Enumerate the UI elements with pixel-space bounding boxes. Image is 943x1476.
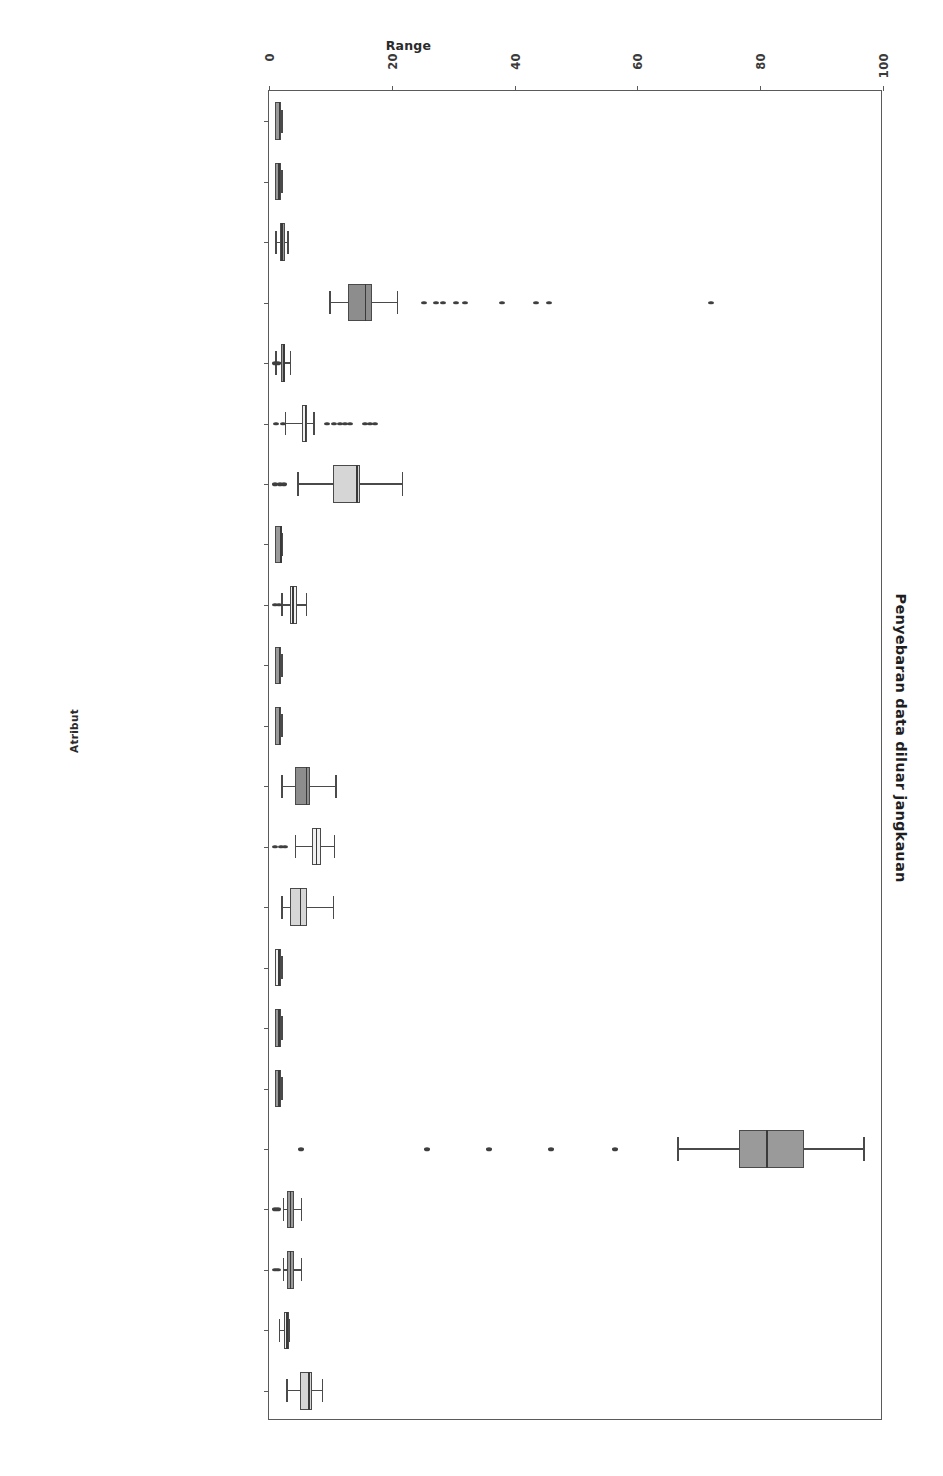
outlier-point <box>272 845 278 849</box>
outlier-point <box>280 422 286 426</box>
whisker-high <box>321 846 335 847</box>
cap-high <box>863 1137 864 1160</box>
x-tick-mark <box>392 86 393 91</box>
y-tick-mark <box>264 1391 269 1392</box>
outlier-point <box>499 301 505 305</box>
median-line <box>283 344 285 381</box>
x-tick-mark <box>515 86 516 91</box>
whisker-low <box>297 483 333 484</box>
median-line <box>290 1251 292 1288</box>
cap-high <box>281 714 282 737</box>
whisker-low <box>677 1148 739 1149</box>
cap-low <box>295 835 296 858</box>
whisker-high <box>310 786 336 787</box>
outlier-point <box>612 1147 618 1151</box>
scan-margin <box>0 0 943 10</box>
outlier-point <box>440 301 446 305</box>
median-line <box>278 163 280 200</box>
y-tick-mark <box>264 1028 269 1029</box>
median-line <box>306 767 308 804</box>
outlier-point <box>347 422 353 426</box>
y-tick-mark <box>264 1330 269 1331</box>
y-tick-mark <box>264 605 269 606</box>
cap-high <box>301 1198 302 1221</box>
median-line <box>308 1372 310 1409</box>
whisker-high <box>294 1269 301 1270</box>
chart-page: Range Atribut Penyebaran data diluar jan… <box>0 0 943 1476</box>
y-tick-mark <box>264 1209 269 1210</box>
plot-area: 020406080100 Jenis kelaminLokasi rumahLe… <box>268 90 882 1420</box>
x-tick-label: 100 <box>877 53 891 78</box>
whisker-high <box>312 1390 322 1391</box>
outlier-point <box>276 603 282 607</box>
x-tick-mark <box>883 86 884 91</box>
x-tick-mark <box>637 86 638 91</box>
x-axis-title: Range <box>0 38 943 53</box>
median-line <box>365 284 367 321</box>
outlier-point <box>273 422 279 426</box>
x-tick-mark <box>760 86 761 91</box>
x-axis-title-text: Range <box>386 38 431 53</box>
outlier-point <box>548 1147 554 1151</box>
outlier-point <box>708 301 714 305</box>
cap-low <box>677 1137 678 1160</box>
outlier-point <box>282 845 288 849</box>
cap-high <box>313 412 314 435</box>
x-tick-label: 0 <box>263 53 277 61</box>
cap-high <box>281 110 282 133</box>
median-line <box>281 223 283 260</box>
x-tick-label: 60 <box>631 53 645 70</box>
whisker-low <box>285 423 302 424</box>
median-line <box>766 1130 768 1167</box>
median-line <box>279 102 281 139</box>
whisker-high <box>372 302 397 303</box>
cap-low <box>283 1258 284 1281</box>
y-tick-mark <box>264 1149 269 1150</box>
median-line <box>278 1009 280 1046</box>
cap-high <box>333 896 334 919</box>
cap-high <box>322 1379 323 1402</box>
cap-low <box>281 896 282 919</box>
whisker-low <box>295 846 312 847</box>
median-line <box>300 888 302 925</box>
cap-low <box>281 775 282 798</box>
outlier-point <box>433 301 439 305</box>
outlier-point <box>462 301 468 305</box>
median-line <box>290 1191 292 1228</box>
y-tick-mark <box>264 1089 269 1090</box>
outlier-point <box>486 1147 492 1151</box>
whisker-high <box>294 1209 301 1210</box>
x-tick-mark <box>269 86 270 91</box>
cap-high <box>281 1077 282 1100</box>
whisker-high <box>804 1148 863 1149</box>
y-tick-mark <box>264 726 269 727</box>
cap-low <box>297 472 298 495</box>
outlier-point <box>275 1268 281 1272</box>
outlier-point <box>546 301 552 305</box>
cap-high <box>281 956 282 979</box>
cap-high <box>402 472 403 495</box>
y-tick-mark <box>264 907 269 908</box>
median-line <box>279 707 281 744</box>
cap-high <box>289 1319 290 1342</box>
cap-low <box>275 231 276 254</box>
cap-high <box>281 654 282 677</box>
outlier-point <box>324 422 330 426</box>
y-tick-mark <box>264 242 269 243</box>
x-tick-label: 80 <box>754 53 768 70</box>
outlier-point <box>424 1147 430 1151</box>
y-tick-mark <box>264 303 269 304</box>
y-tick-mark <box>264 968 269 969</box>
median-line <box>286 1312 288 1349</box>
median-line <box>278 1070 280 1107</box>
y-tick-mark <box>264 363 269 364</box>
outlier-point <box>275 1208 281 1212</box>
whisker-high <box>307 907 333 908</box>
outlier-point <box>533 301 539 305</box>
median-line <box>356 465 358 502</box>
cap-high <box>281 1016 282 1039</box>
outlier-point <box>453 301 459 305</box>
outlier-point <box>421 301 427 305</box>
outlier-point <box>298 1147 304 1151</box>
chart-title: Penyebaran data diluar jangkauan <box>893 594 909 883</box>
